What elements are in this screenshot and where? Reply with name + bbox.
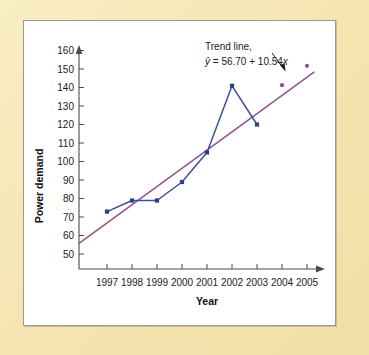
y-tick-label: 160 (57, 45, 74, 56)
power-demand-line-chart: 50 60 70 80 90 100 110 120 130 140 150 1… (24, 21, 335, 325)
data-marker-2003 (255, 122, 259, 126)
y-tick-label: 120 (57, 119, 74, 130)
y-axis-arrowhead (76, 45, 83, 54)
y-tick-label: 100 (57, 156, 74, 167)
y-axis-tick-marks (79, 51, 84, 255)
x-tick-label: 2003 (246, 277, 269, 288)
x-tick-label: 2005 (296, 277, 319, 288)
y-tick-label: 140 (57, 82, 74, 93)
y-tick-label: 90 (63, 175, 75, 186)
data-marker-2001 (205, 150, 209, 154)
x-tick-label: 1999 (146, 277, 169, 288)
trend-marker-2005 (305, 64, 309, 68)
trend-marker-2004 (280, 83, 284, 87)
trend-line-annotation: Trend line, ŷ = 56.70 + 10.54x (204, 41, 289, 72)
y-axis-title: Power demand (33, 149, 45, 224)
trend-line-series (79, 64, 314, 244)
x-axis-tick-labels: 1997 1998 1999 2000 2001 2002 2003 2004 … (96, 277, 319, 288)
power-demand-series (105, 84, 259, 214)
trend-line-path (79, 72, 314, 243)
data-marker-1998 (130, 198, 134, 202)
annotation-line-2: ŷ = 56.70 + 10.54x (204, 56, 289, 67)
annotation-line-1: Trend line, (205, 41, 252, 52)
x-tick-label: 2002 (221, 277, 244, 288)
x-axis-tick-marks (107, 264, 307, 269)
data-marker-2002 (230, 84, 234, 88)
power-demand-path (107, 86, 257, 212)
data-marker-2000 (180, 180, 184, 184)
y-tick-label: 50 (63, 249, 75, 260)
y-axis-tick-labels: 50 60 70 80 90 100 110 120 130 140 150 1… (57, 45, 74, 260)
y-tick-label: 60 (63, 230, 75, 241)
x-tick-label: 1998 (121, 277, 144, 288)
y-tick-label: 130 (57, 101, 74, 112)
x-axis: 1997 1998 1999 2000 2001 2002 2003 2004 … (79, 264, 325, 307)
x-tick-label: 2000 (171, 277, 194, 288)
x-tick-label: 1997 (96, 277, 119, 288)
data-marker-1999 (155, 198, 159, 202)
data-marker-1997 (105, 210, 109, 214)
annotation-equation-body: = 56.70 + 10.54 (210, 56, 283, 67)
x-tick-label: 2004 (271, 277, 294, 288)
y-tick-label: 110 (58, 138, 74, 149)
y-axis: 50 60 70 80 90 100 110 120 130 140 150 1… (33, 45, 84, 269)
chart-card: 50 60 70 80 90 100 110 120 130 140 150 1… (23, 20, 336, 326)
figure-background: 50 60 70 80 90 100 110 120 130 140 150 1… (0, 0, 369, 355)
x-tick-label: 2001 (196, 277, 219, 288)
y-tick-label: 150 (57, 64, 74, 75)
y-tick-label: 80 (63, 193, 75, 204)
x-axis-arrowhead (316, 266, 325, 273)
x-axis-title: Year (196, 295, 218, 307)
y-tick-label: 70 (63, 212, 75, 223)
